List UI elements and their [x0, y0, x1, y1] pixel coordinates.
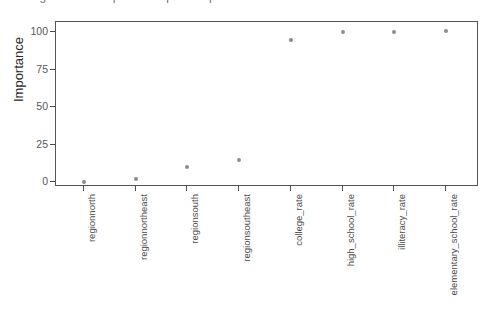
x-tick-label: high_school_rate — [346, 194, 356, 266]
x-tick-label-text: regionnortheast — [139, 194, 149, 260]
y-tick-label: 75 — [18, 63, 48, 74]
x-tick-label: college_rate — [294, 194, 304, 246]
x-tick-mark — [83, 186, 84, 191]
x-tick-label: regionnortheast — [139, 194, 149, 260]
data-point — [392, 30, 396, 34]
y-tick-label: 100 — [18, 26, 48, 37]
y-tick-label: 50 — [18, 101, 48, 112]
x-tick-label: elementary_school_rate — [449, 194, 459, 295]
y-tick-mark — [50, 69, 55, 70]
y-tick-label: 0 — [18, 176, 48, 187]
y-tick-mark — [50, 31, 55, 32]
x-tick-mark — [238, 186, 239, 191]
x-tick-label: illiteracy_rate — [397, 194, 407, 250]
x-tick-mark — [290, 186, 291, 191]
data-point — [289, 38, 293, 42]
x-tick-label-text: elementary_school_rate — [449, 194, 459, 295]
data-point — [237, 158, 241, 162]
data-point — [185, 165, 189, 169]
x-tick-mark — [186, 186, 187, 191]
x-tick-label-text: regionsouth — [190, 194, 200, 244]
x-tick-mark — [342, 186, 343, 191]
x-tick-label-text: high_school_rate — [346, 194, 356, 266]
y-axis-tick-labels: 0255075100 — [14, 0, 48, 319]
x-tick-label-text: regionnorth — [87, 194, 97, 242]
x-tick-label: regionsoutheast — [242, 194, 252, 262]
data-point — [134, 177, 138, 181]
x-tick-label-text: college_rate — [294, 194, 304, 246]
y-tick-label: 25 — [18, 138, 48, 149]
x-tick-mark — [445, 186, 446, 191]
y-tick-mark — [50, 106, 55, 107]
x-tick-label-text: illiteracy_rate — [397, 194, 407, 250]
y-tick-mark — [50, 144, 55, 145]
data-point — [444, 29, 448, 33]
data-point — [341, 30, 345, 34]
plot-panel — [55, 21, 478, 186]
x-tick-label: regionnorth — [87, 194, 97, 242]
x-tick-label: regionsouth — [190, 194, 200, 244]
importance-dot-plot: Importance 0255075100 regionnorthregionn… — [0, 0, 487, 319]
x-tick-label-text: regionsoutheast — [242, 194, 252, 262]
x-tick-mark — [135, 186, 136, 191]
y-tick-mark — [50, 181, 55, 182]
x-tick-mark — [393, 186, 394, 191]
data-point — [82, 180, 86, 184]
